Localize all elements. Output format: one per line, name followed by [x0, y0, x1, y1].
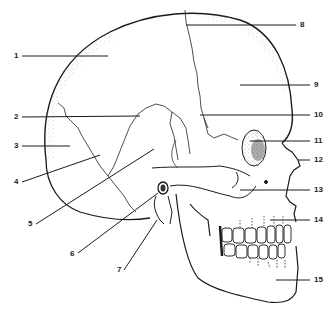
leader-4	[22, 155, 100, 182]
label-8: 8	[300, 21, 304, 29]
orbit	[242, 130, 266, 166]
label-7: 7	[117, 266, 121, 274]
label-3: 3	[14, 142, 18, 150]
label-13: 13	[314, 186, 323, 194]
label-15: 15	[314, 276, 323, 284]
leader-5	[36, 149, 154, 224]
label-11: 11	[314, 137, 322, 145]
label-14: 14	[314, 216, 323, 224]
label-2: 2	[14, 113, 18, 121]
leader-2	[22, 116, 140, 117]
label-12: 12	[314, 156, 323, 164]
label-5: 5	[28, 220, 32, 228]
skull-diagram: 1 2 3 4 5 6 7 8 9 10 11 12 13 14 15	[0, 0, 333, 313]
teeth	[220, 216, 291, 268]
ear-canal	[154, 140, 178, 224]
face-profile	[282, 143, 300, 222]
skull-illustration	[0, 0, 333, 313]
label-10: 10	[314, 111, 323, 119]
sutures	[58, 10, 238, 212]
label-6: 6	[70, 250, 74, 258]
label-4: 4	[14, 178, 18, 186]
zygomatic-arch	[152, 166, 268, 198]
label-9: 9	[314, 81, 318, 89]
leader-lines	[22, 25, 310, 280]
label-1: 1	[14, 52, 18, 60]
leader-6	[78, 193, 158, 253]
leader-7	[124, 220, 157, 270]
